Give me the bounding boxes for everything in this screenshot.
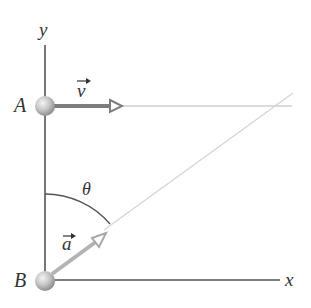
ball-b-icon <box>35 271 55 291</box>
velocity-label: v <box>77 80 86 101</box>
angle-arc <box>45 194 110 224</box>
y-axis-label: y <box>37 19 48 40</box>
diagonal-guide-line <box>104 93 293 230</box>
velocity-vector <box>52 100 122 112</box>
acceleration-vector <box>52 233 106 274</box>
arrowhead-icon <box>110 100 122 112</box>
point-b-label: B <box>14 269 26 291</box>
angle-theta-label: θ <box>82 179 91 199</box>
x-axis-label: x <box>284 269 294 290</box>
ball-a-icon <box>35 96 55 116</box>
acceleration-vector-shaft <box>52 241 97 274</box>
physics-diagram: y x θ v a A B <box>0 0 311 308</box>
point-a-label: A <box>12 94 27 116</box>
